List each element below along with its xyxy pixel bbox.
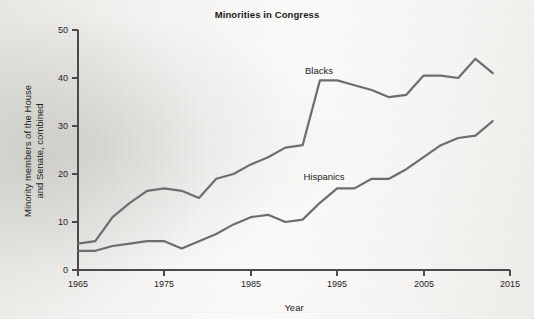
- y-tick-label-30: 30: [58, 121, 68, 131]
- x-tick-label-1995: 1995: [327, 279, 347, 289]
- series-line-hispanics: [78, 121, 493, 251]
- x-tick-label-1965: 1965: [68, 279, 88, 289]
- x-axis-label: Year: [284, 302, 303, 313]
- series-annotation-hispanics: Hispanics: [303, 171, 344, 182]
- minorities-in-congress-chart: Minorities in Congress Minority members …: [0, 0, 534, 319]
- y-tick-label-20: 20: [58, 169, 68, 179]
- y-axis-ticks: 0 10 20 30 40 50: [58, 25, 78, 275]
- y-axis-label-line2: and Senate, combined: [34, 103, 45, 198]
- x-tick-label-2015: 2015: [500, 279, 520, 289]
- y-tick-label-50: 50: [58, 25, 68, 35]
- x-tick-label-2005: 2005: [414, 279, 434, 289]
- series-annotation-blacks: Blacks: [305, 65, 333, 76]
- y-tick-label-40: 40: [58, 73, 68, 83]
- x-axis-ticks: 1965 1975 1985 1995 2005 2015: [68, 270, 520, 289]
- chart-title: Minorities in Congress: [215, 9, 320, 20]
- x-tick-label-1975: 1975: [154, 279, 174, 289]
- y-axis-label-line1: Minority members of the House: [22, 85, 33, 217]
- y-axis-label: Minority members of the House and Senate…: [22, 85, 45, 217]
- y-tick-label-0: 0: [63, 265, 68, 275]
- y-tick-label-10: 10: [58, 217, 68, 227]
- x-tick-label-1985: 1985: [241, 279, 261, 289]
